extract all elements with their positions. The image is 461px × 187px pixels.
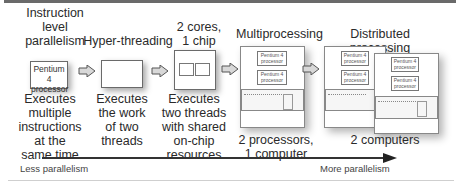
- dual-core-chip: [174, 50, 216, 90]
- pentium-4-chip: Pentium 4 processor: [257, 70, 287, 85]
- more-parallelism-label: More parallelism: [320, 163, 390, 174]
- block-arrow-right-icon: [221, 63, 239, 75]
- pentium-4-chip: Pentium 4 processor: [30, 61, 68, 89]
- arrow-right-icon: [383, 153, 397, 163]
- pentium-4-chip: Pentium 4 processor: [391, 76, 419, 91]
- pentium-4-chip: Pentium 4 processor: [257, 51, 287, 66]
- stage-distributed-description: 2 computers: [340, 133, 430, 147]
- computer: Pentium 4 processor Pentium 4 processor: [240, 46, 305, 128]
- hyperthreading-chip: [101, 60, 143, 88]
- block-arrow-right-icon: [302, 63, 320, 75]
- parallelism-axis: [42, 157, 387, 159]
- computer-2: Pentium 4 processor Pentium 4 processor: [374, 53, 439, 134]
- less-parallelism-label: Less parallelism: [20, 163, 88, 174]
- pentium-4-chip: Pentium 4 processor: [341, 51, 369, 66]
- block-arrow-right-icon: [151, 65, 169, 77]
- keyboard: [241, 89, 304, 111]
- block-arrow-right-icon: [78, 65, 96, 77]
- keyboard: [375, 96, 438, 119]
- stage-multicore-heading: 2 cores, 1 chip: [164, 20, 234, 48]
- core-2: [195, 63, 210, 76]
- stage-multiprocessing-heading: Multiprocessing: [236, 27, 316, 41]
- bottom-divider: [8, 180, 454, 181]
- pentium-4-chip: Pentium 4 processor: [391, 57, 419, 72]
- stage-hyperthreading-description: Executes the work of two threads: [92, 92, 152, 148]
- stage-multicore-description: Executes two threads with shared on-chip…: [156, 92, 232, 162]
- stage-hyperthreading-heading: Hyper-threading: [82, 34, 174, 48]
- stage-ilp-description: Executes multiple instructions at the sa…: [10, 92, 90, 162]
- pentium-4-chip: Pentium 4 processor: [341, 70, 369, 85]
- top-border: [4, 0, 456, 3]
- core-1: [179, 63, 194, 76]
